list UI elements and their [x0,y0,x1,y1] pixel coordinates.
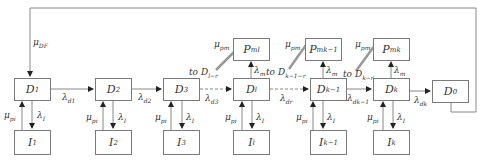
edge-label-dk-minus-1: λdk−1 [347,94,369,105]
edge-label-d2: λd2 [138,93,151,104]
inspect-label-k: λI [397,113,405,124]
pm-label-k: μpm [355,40,370,51]
node-i3: I3 [163,130,200,155]
inspect-label-2: λI [118,113,126,124]
repair-label-k: μpi [367,113,379,124]
node-d3: D3 [163,78,200,101]
node-dk: Dk [373,78,410,101]
node-pmk-minus-1: Pmk−1 [305,38,342,61]
pm-label-k-minus-1: μpm [285,40,300,51]
node-dl: Dl [233,78,270,101]
edge-label-d3: λd3 [205,94,218,105]
maint-label-k-minus-1: λm [326,66,337,77]
feedback-rate-label: μDF [33,38,48,49]
node-d0: D0 [432,80,469,103]
node-pml: Pml [233,38,270,61]
inspect-label-k-minus-1: λI [327,113,335,124]
state-diagram: μDF D1 D2 D3 Dl Dk−1 Dk D0 I1 I2 I3 Il I… [0,0,482,162]
node-ik: Ik [373,130,410,155]
node-d1: D1 [14,78,51,101]
node-pmk: Pmk [373,38,410,61]
repair-label-k-minus-1: μpi [296,113,308,124]
node-dk-minus-1: Dk−1 [310,78,347,101]
inspect-label-l: λI [256,113,264,124]
edge-label-d1: λd1 [62,93,75,104]
maint-label-l: λm [254,66,265,77]
edge-label-dr: λdr [280,94,292,105]
node-d2: D2 [95,78,132,101]
pm-target-l: to Dl−r [189,68,218,79]
node-i1: I1 [14,130,51,155]
repair-label-l: μpi [225,113,237,124]
pm-target-k: to Dk−r [343,70,374,81]
repair-label-3: μpi [155,113,167,124]
inspect-label-3: λI [186,113,194,124]
pm-target-k-minus-1: to Dk−1−r [266,68,306,79]
repair-label-2: μpi [86,113,98,124]
node-il: Il [233,130,270,155]
pm-label-l: μpm [214,40,229,51]
inspect-label-1: λI [37,111,45,122]
edge-label-dk: λdk [414,96,427,107]
repair-label-1: μpi [4,111,16,122]
node-i2: I2 [95,130,132,155]
maint-label-k: λm [394,66,405,77]
node-ik-minus-1: Ik−1 [310,130,347,155]
